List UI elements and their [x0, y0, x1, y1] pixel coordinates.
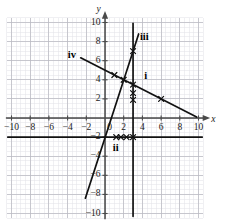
x-axis-tick-label: −4 [63, 123, 73, 133]
line-label-ii: ii [113, 143, 119, 154]
line-label-i: i [144, 70, 147, 81]
x-axis-tick-label: 0 [107, 123, 112, 133]
x-axis-tick-label: 6 [159, 123, 164, 133]
y-axis-tick-label: −8 [90, 190, 100, 200]
y-axis-tick-label: 2 [96, 94, 101, 104]
x-axis-tick-label: −8 [25, 123, 35, 133]
y-axis-tick-label: −10 [86, 209, 101, 219]
x-axis-name: x [211, 115, 215, 125]
x-axis-tick-label: 4 [140, 123, 145, 133]
y-axis-tick-label: −2 [90, 132, 100, 142]
y-axis-tick-label: 6 [96, 56, 101, 66]
y-axis-tick-label: 4 [96, 75, 101, 85]
x-axis-tick-label: 10 [194, 123, 204, 133]
x-axis-tick-label: −10 [4, 123, 19, 133]
x-axis-arrowhead [203, 115, 210, 121]
line-label-iv: iv [68, 50, 76, 61]
y-axis-name: y [96, 5, 100, 15]
y-axis-tick-label: −6 [90, 171, 100, 181]
y-axis-tick-label: 8 [96, 37, 101, 47]
y-axis-tick-label: −4 [90, 151, 100, 161]
coordinate-plane [0, 0, 225, 221]
y-axis-arrowhead [102, 11, 108, 19]
graph-figure: −10−8−6−4−20246810108642−2−4−6−8−10xyiii… [0, 0, 225, 221]
y-axis-tick-label: 10 [91, 18, 101, 28]
x-axis-tick-label: 8 [177, 123, 182, 133]
x-axis-tick-label: −6 [44, 123, 54, 133]
line-label-iii: iii [140, 32, 149, 43]
x-axis-tick-label: 2 [121, 123, 126, 133]
